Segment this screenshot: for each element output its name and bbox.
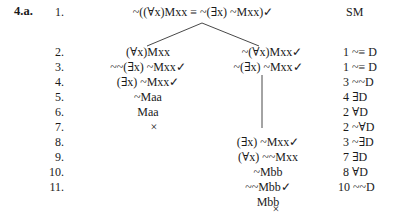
right-branch-node: ~Mbb (253, 165, 282, 179)
justification: 7 ∃D (343, 150, 367, 164)
right-branch-node: ~(∃x) ~Mxx✓ (233, 60, 302, 74)
justification: 1 ~≡ D (343, 45, 377, 59)
justification: 2 ∀D (343, 105, 368, 119)
justification: 10 ~~D (338, 180, 375, 194)
right-branch-node: ~~Mbb✓ (245, 180, 291, 194)
justification: SM (346, 5, 363, 19)
closed-branch-mark: × (151, 120, 158, 134)
left-branch-node: (∃x) ~Mxx✓ (117, 75, 180, 89)
right-branch-node: ~(∀x)Mxx✓ (242, 45, 302, 59)
justification: 1 ~≡ D (343, 60, 377, 74)
left-branch-node: ~~(∃x) ~Mxx✓ (110, 60, 186, 74)
justification: 4 ∃D (343, 90, 367, 104)
right-branch-node: (∃x) ~Mxx✓ (237, 135, 300, 149)
justification: 8 ∀D (343, 165, 368, 179)
right-branch-node: (∀x) ~~Mxx (238, 150, 298, 164)
justification: 3 ~~D (343, 75, 374, 89)
justification: 2 ~∀D (343, 120, 374, 134)
justification: 3 ~∃D (343, 135, 374, 149)
left-branch-node: (∀x)Mxx (126, 45, 170, 59)
left-branch-node: ~Maa (134, 90, 162, 104)
left-branch-node: Maa (137, 105, 158, 119)
